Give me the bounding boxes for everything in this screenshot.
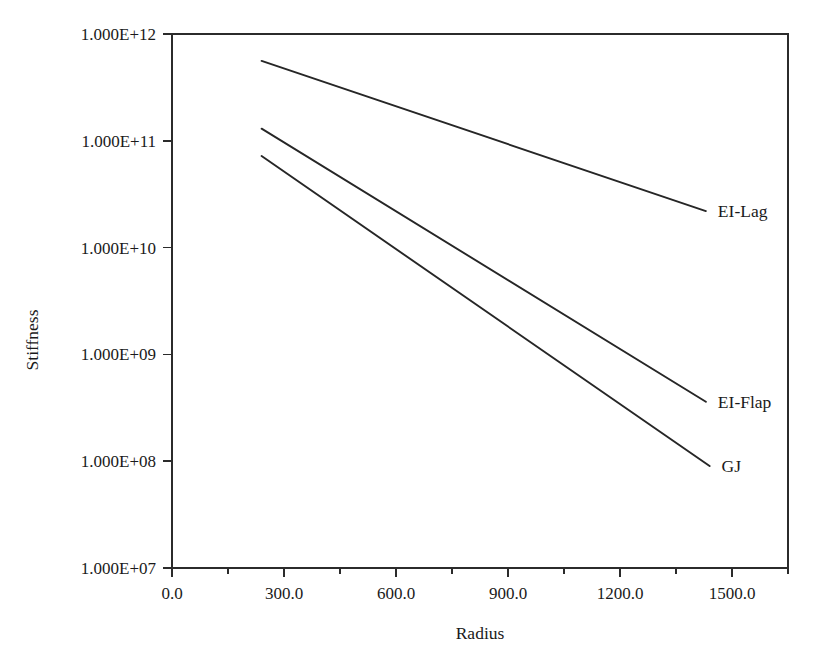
y-tick-label: 1.000E+08 [81,452,156,471]
series-line-ei-lag [262,61,706,211]
series-label-ei-lag: EI-Lag [718,201,768,221]
stiffness-vs-radius-chart: 1.000E+071.000E+081.000E+091.000E+101.00… [0,0,824,659]
y-axis-tick-labels: 1.000E+071.000E+081.000E+091.000E+101.00… [81,25,157,578]
x-tick-label: 300.0 [265,584,303,603]
x-tick-label: 1500.0 [709,584,756,603]
y-tick-label: 1.000E+10 [81,239,156,258]
x-tick-label: 0.0 [161,584,182,603]
chart-figure: 1.000E+071.000E+081.000E+091.000E+101.00… [0,0,824,659]
series-inline-labels: EI-LagEI-FlapGJ [718,201,772,476]
y-tick-label: 1.000E+12 [81,25,156,44]
x-axis-title: Radius [456,623,505,643]
series-line-ei-flap [262,129,706,402]
x-tick-label: 600.0 [377,584,415,603]
series-label-ei-flap: EI-Flap [718,392,772,412]
series-line-gj [262,156,710,466]
series-label-gj: GJ [722,456,742,476]
x-tick-label: 900.0 [489,584,527,603]
y-axis-tick-marks [163,34,172,568]
y-tick-label: 1.000E+07 [81,559,157,578]
plot-frame [172,34,788,568]
y-tick-label: 1.000E+11 [81,132,156,151]
data-series-lines [262,61,710,466]
x-tick-label: 1200.0 [597,584,644,603]
y-tick-label: 1.000E+09 [81,345,156,364]
y-axis-title: Stiffness [22,309,42,370]
x-axis-tick-labels: 0.0300.0600.0900.01200.01500.0 [161,584,755,603]
